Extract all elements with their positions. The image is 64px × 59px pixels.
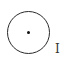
radio-selected-dot-icon	[27, 31, 30, 34]
radio-button[interactable]	[7, 11, 50, 54]
text-cursor-icon: I	[55, 43, 60, 55]
